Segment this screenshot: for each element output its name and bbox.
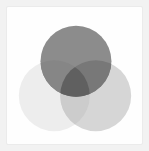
venn-svg: [7, 7, 142, 144]
venn-stage: [7, 7, 142, 144]
venn-diagram-app: [0, 0, 149, 151]
figure-card: [6, 6, 143, 145]
